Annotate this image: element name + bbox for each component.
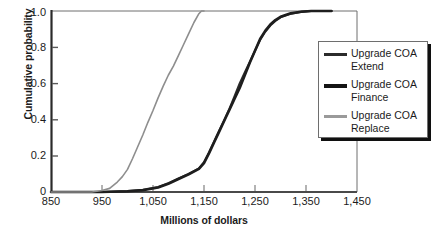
legend-label-replace-line1: Upgrade COA [351,109,417,121]
series-line [51,11,332,192]
x-tick-label: 1,450 [327,195,387,208]
legend-swatch-extend [324,53,347,56]
legend-item-replace[interactable]: Upgrade COA Replace [324,109,426,139]
y-axis-ticks [52,47,58,156]
legend-label-finance-line1: Upgrade COA [351,78,417,90]
legend-item-extend[interactable]: Upgrade COA Extend [324,47,426,77]
legend-label-finance-line2: Finance [351,91,388,103]
legend-label-extend: Upgrade COA Extend [351,47,427,73]
legend-label-replace: Upgrade COA Replace [351,109,427,135]
legend-label-replace-line2: Replace [351,122,390,134]
chart-legend: Upgrade COA Extend Upgrade COA Finance U… [318,41,428,138]
legend-swatch-finance [324,84,347,88]
legend-label-extend-line1: Upgrade COA [351,47,417,59]
x-axis-title: Millions of dollars [51,214,357,226]
series-line [51,11,332,192]
legend-label-finance: Upgrade COA Finance [351,78,427,104]
series-line [51,11,204,192]
legend-swatch-replace [324,115,347,118]
chart-figure: Cumulative probability 1.0 0.8 0.6 0.4 0… [0,0,437,233]
legend-item-finance[interactable]: Upgrade COA Finance [324,78,426,108]
legend-label-extend-line2: Extend [351,60,384,72]
x-axis-tick-labels: 850 950 1,050 1,150 1,250 1,350 1,450 [0,195,437,213]
data-curves [51,11,332,192]
